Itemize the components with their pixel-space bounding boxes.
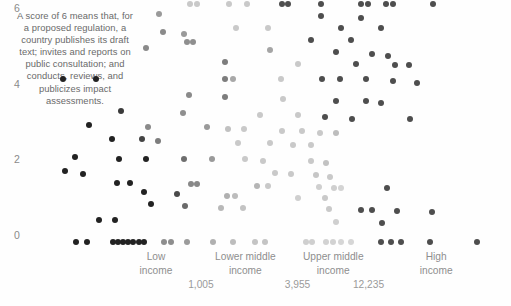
data-point	[295, 195, 301, 201]
data-point	[240, 205, 246, 211]
data-point	[330, 239, 336, 245]
data-point	[323, 239, 329, 245]
data-point	[338, 25, 344, 31]
data-point	[323, 160, 329, 166]
plot-area	[28, 4, 511, 242]
data-point	[394, 208, 400, 214]
data-point	[267, 47, 273, 53]
data-point	[86, 122, 92, 128]
data-point	[385, 53, 391, 59]
data-point	[222, 59, 228, 65]
data-point	[280, 96, 286, 102]
data-point	[369, 207, 375, 213]
data-point	[317, 130, 323, 136]
group-label-line1: Lower middle	[215, 251, 276, 262]
data-point	[299, 128, 305, 134]
data-point	[194, 181, 200, 187]
data-point	[265, 25, 271, 31]
data-point	[348, 239, 354, 245]
data-point	[308, 142, 314, 148]
data-point	[210, 239, 216, 245]
group-label-line1: Low	[147, 251, 166, 262]
data-point	[241, 126, 247, 132]
data-point	[114, 180, 120, 186]
data-point	[348, 37, 354, 43]
data-point	[96, 217, 102, 223]
data-point	[93, 76, 99, 82]
data-point	[365, 1, 371, 7]
data-point	[184, 239, 190, 245]
data-point	[378, 239, 384, 245]
data-point	[272, 170, 278, 176]
data-point	[252, 239, 258, 245]
data-point	[392, 62, 398, 68]
data-point	[338, 185, 344, 191]
data-point	[322, 114, 328, 120]
data-point	[384, 185, 390, 191]
data-point	[232, 193, 238, 199]
data-point	[309, 239, 315, 245]
scatter-chart: 6 4 2 0 A score of 6 means that, for a p…	[0, 0, 511, 306]
data-point	[174, 191, 180, 197]
data-point	[204, 124, 210, 130]
data-point	[318, 1, 324, 7]
data-point	[398, 239, 404, 245]
data-point	[278, 76, 284, 82]
group-label-line1: High	[426, 251, 447, 262]
data-point	[186, 92, 192, 98]
data-point	[267, 140, 273, 146]
data-point	[194, 1, 200, 7]
data-point	[358, 1, 364, 7]
data-point	[308, 37, 314, 43]
data-point	[225, 126, 231, 132]
data-point	[279, 1, 285, 7]
group-label-line2: income	[376, 264, 496, 278]
data-point	[109, 136, 115, 142]
data-point	[318, 13, 324, 19]
data-point	[233, 25, 239, 31]
data-point	[358, 207, 364, 213]
group-label-line1: Upper middle	[303, 251, 364, 262]
data-point	[390, 1, 396, 7]
data-point	[235, 140, 241, 146]
data-point	[378, 100, 384, 106]
data-point	[187, 1, 193, 7]
data-point	[279, 128, 285, 134]
data-point	[118, 108, 124, 114]
data-point	[260, 158, 266, 164]
data-point	[145, 124, 151, 130]
data-point	[337, 76, 343, 82]
data-point	[242, 156, 248, 162]
data-point	[148, 201, 154, 207]
data-point	[190, 39, 196, 45]
data-point	[295, 112, 301, 118]
data-point	[290, 142, 296, 148]
data-point	[139, 136, 145, 142]
data-point	[244, 1, 250, 7]
data-point	[160, 29, 166, 35]
data-point	[84, 239, 90, 245]
x-axis-group-label: Highincome	[376, 250, 496, 277]
data-point	[288, 171, 294, 177]
x-axis-threshold-label: 12,235	[334, 279, 404, 290]
data-point	[161, 239, 167, 245]
data-point	[316, 184, 322, 190]
data-point	[303, 239, 309, 245]
data-point	[112, 217, 118, 223]
data-point	[331, 185, 337, 191]
data-point	[265, 183, 271, 189]
data-point	[313, 172, 319, 178]
data-point	[226, 1, 232, 7]
data-point	[222, 94, 228, 100]
data-point	[429, 209, 435, 215]
data-point	[308, 158, 314, 164]
data-point	[363, 76, 369, 82]
data-point	[224, 193, 230, 199]
data-point	[182, 203, 188, 209]
data-point	[180, 110, 186, 116]
data-point	[230, 76, 236, 82]
data-point	[333, 49, 339, 55]
data-point	[388, 239, 394, 245]
data-point	[474, 239, 480, 245]
data-point	[127, 180, 133, 186]
